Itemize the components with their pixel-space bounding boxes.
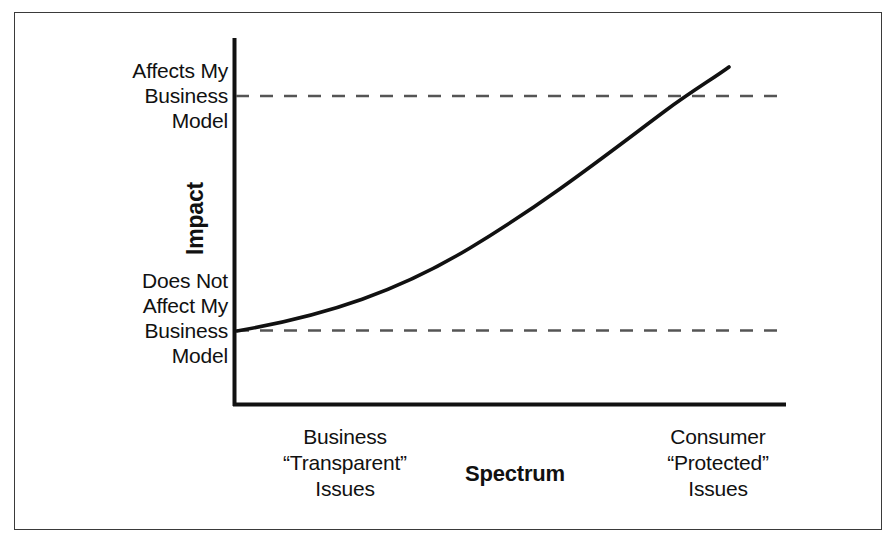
x-tick-label-business-transparent: Business “Transparent” Issues bbox=[245, 424, 445, 502]
y-tick-label-does-not-affect: Does Not Affect My Business Model bbox=[8, 268, 228, 368]
chart-page: Affects My Business Model Does Not Affec… bbox=[0, 0, 896, 542]
y-tick-label-affects: Affects My Business Model bbox=[8, 58, 228, 133]
x-tick-label-consumer-protected: Consumer “Protected” Issues bbox=[618, 424, 818, 502]
x-axis-title: Spectrum bbox=[440, 461, 590, 487]
y-axis-title: Impact bbox=[152, 158, 238, 278]
y-axis-title-text: Impact bbox=[182, 182, 209, 255]
